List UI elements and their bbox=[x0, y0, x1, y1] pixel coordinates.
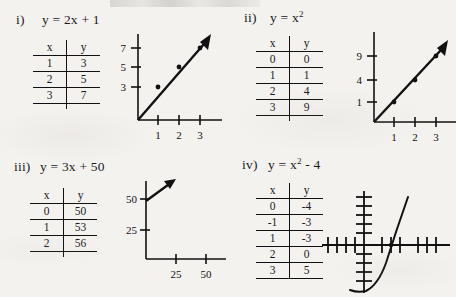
table-row: 1 3 bbox=[33, 56, 100, 72]
table-header-y: y bbox=[64, 188, 98, 204]
table-cell-y: 56 bbox=[64, 236, 98, 252]
data-point bbox=[434, 54, 439, 59]
x-tick-label: 3 bbox=[433, 131, 439, 143]
y-tick-label: 9 bbox=[357, 50, 363, 62]
x-tick-label: 3 bbox=[197, 129, 203, 141]
panel-i-number: i) bbox=[16, 12, 38, 28]
panel-ii-number: ii) bbox=[244, 10, 266, 26]
table-cell-y: 0 bbox=[290, 52, 324, 68]
table-row: 1 -3 bbox=[256, 231, 323, 247]
table-cell-y: 53 bbox=[64, 220, 98, 236]
table-header-x: x bbox=[256, 183, 290, 199]
panel-i-graph: 7 5 3 1 2 3 bbox=[104, 28, 224, 146]
panel-i-heading: i)y = 2x + 1 bbox=[16, 12, 100, 28]
table-cell-spacer bbox=[64, 252, 98, 258]
x-tick-label: 1 bbox=[155, 129, 161, 141]
table-row: 0 -4 bbox=[256, 199, 323, 215]
table-cell-y: -3 bbox=[290, 231, 324, 247]
panel-ii-table: x y 0 0 1 1 2 4 3 9 bbox=[256, 36, 323, 121]
table-cell-spacer bbox=[67, 104, 101, 110]
panel-iii-graph: 50 25 25 50 bbox=[128, 177, 233, 289]
table-row: 2 4 bbox=[256, 84, 323, 100]
panel-iv-equation-lhs: y = bbox=[268, 157, 286, 173]
table-cell-x: 0 bbox=[256, 199, 290, 215]
table-header-x: x bbox=[33, 40, 67, 56]
panel-iv: iv)y = x2 - 4 x y 0 -4 -1 -3 1 -3 2 0 bbox=[228, 153, 456, 297]
table-cell-spacer bbox=[30, 252, 64, 258]
scan-artifact-top bbox=[110, 0, 260, 7]
table-cell-y: 4 bbox=[290, 84, 324, 100]
table-cell-y: 1 bbox=[290, 68, 324, 84]
table-cell-x: 0 bbox=[256, 52, 290, 68]
panel-i: i)y = 2x + 1 x y 1 3 2 5 3 7 bbox=[0, 8, 228, 154]
table-header-y: y bbox=[67, 40, 101, 56]
panel-iv-equation-rhs: x bbox=[290, 157, 297, 172]
data-point bbox=[198, 46, 203, 51]
panel-iii-equation-lhs: y = bbox=[40, 159, 58, 175]
x-tick-label: 2 bbox=[176, 129, 182, 141]
table-header-y: y bbox=[290, 36, 324, 52]
panel-iii-equation-rhs: 3x + 50 bbox=[62, 159, 105, 174]
panel-iv-table: x y 0 -4 -1 -3 1 -3 2 0 3 5 bbox=[256, 183, 323, 279]
panel-iv-equation-tail: - 4 bbox=[305, 157, 320, 172]
table-cell-y: 5 bbox=[290, 263, 324, 279]
panel-ii-heading: ii)y = x2 bbox=[244, 10, 304, 26]
table-cell-y: -3 bbox=[290, 215, 324, 231]
table-cell-y: 3 bbox=[67, 56, 101, 72]
data-point bbox=[156, 85, 161, 90]
panel-ii-equation-exponent: 2 bbox=[299, 9, 304, 19]
table-cell-x: 2 bbox=[256, 84, 290, 100]
table-row: 0 0 bbox=[256, 52, 323, 68]
x-tick-label: 2 bbox=[412, 131, 418, 143]
table-row: x y bbox=[256, 36, 323, 52]
x-tick-label: 50 bbox=[201, 268, 213, 280]
table-row: 1 53 bbox=[30, 220, 97, 236]
data-point bbox=[413, 78, 418, 83]
table-row: 2 56 bbox=[30, 236, 97, 252]
table-cell-spacer bbox=[256, 116, 290, 122]
worksheet-page: i)y = 2x + 1 x y 1 3 2 5 3 7 bbox=[0, 0, 456, 297]
panel-i-equation-rhs: 2x + 1 bbox=[64, 12, 100, 27]
table-cell-x: 2 bbox=[256, 247, 290, 263]
table-row: x y bbox=[30, 188, 97, 204]
table-cell-spacer bbox=[33, 104, 67, 110]
y-tick-label: 1 bbox=[357, 96, 363, 108]
table-cell-x: 3 bbox=[256, 100, 290, 116]
table-cell-x: 2 bbox=[33, 72, 67, 88]
panel-iv-number: iv) bbox=[242, 157, 264, 173]
table-row: 1 1 bbox=[256, 68, 323, 84]
y-tick-label: 4 bbox=[357, 74, 363, 86]
table-row: 2 0 bbox=[256, 247, 323, 263]
data-point bbox=[392, 100, 397, 105]
table-cell-x: 3 bbox=[33, 88, 67, 104]
x-tick-label: 1 bbox=[391, 131, 397, 143]
y-tick-label: 50 bbox=[126, 193, 138, 205]
table-row: 3 7 bbox=[33, 88, 100, 104]
table-cell-x: 1 bbox=[256, 231, 290, 247]
panel-i-equation-lhs: y = bbox=[42, 12, 60, 28]
panel-ii-equation-lhs: y = bbox=[270, 10, 288, 26]
table-cell-x: 1 bbox=[30, 220, 64, 236]
plotted-line bbox=[138, 44, 204, 120]
panel-iv-equation-exponent: 2 bbox=[297, 156, 302, 166]
table-row: 3 5 bbox=[256, 263, 323, 279]
panel-iii: iii)y = 3x + 50 x y 0 50 1 53 2 56 bbox=[0, 155, 228, 297]
table-row: 3 9 bbox=[256, 100, 323, 116]
table-row: 0 50 bbox=[30, 204, 97, 220]
table-cell-y: -4 bbox=[290, 199, 324, 215]
table-cell-y: 9 bbox=[290, 100, 324, 116]
panel-ii-graph: 9 4 1 1 2 3 bbox=[338, 28, 456, 148]
table-cell-x: 1 bbox=[33, 56, 67, 72]
table-cell-y: 50 bbox=[64, 204, 98, 220]
data-point bbox=[389, 243, 393, 247]
table-row bbox=[256, 116, 323, 122]
y-tick-label: 3 bbox=[121, 81, 127, 93]
table-header-x: x bbox=[256, 36, 290, 52]
panel-iv-graph bbox=[320, 187, 454, 297]
table-header-x: x bbox=[30, 188, 64, 204]
table-cell-x: 1 bbox=[256, 68, 290, 84]
table-cell-x: 3 bbox=[256, 263, 290, 279]
table-row bbox=[33, 104, 100, 110]
table-cell-y: 5 bbox=[67, 72, 101, 88]
table-cell-x: -1 bbox=[256, 215, 290, 231]
